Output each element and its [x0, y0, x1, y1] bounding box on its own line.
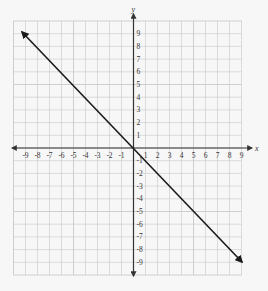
- y-tick-label: -7: [137, 232, 143, 241]
- x-tick-label: -1: [118, 151, 124, 160]
- x-tick-label: 3: [168, 151, 172, 160]
- y-tick-label: -4: [137, 194, 143, 203]
- x-tick-label: -3: [94, 151, 100, 160]
- x-tick-label: -6: [58, 151, 64, 160]
- x-tick-label: -7: [46, 151, 52, 160]
- y-tick-label: -6: [137, 220, 143, 229]
- y-axis-label: y: [131, 5, 136, 14]
- y-tick-label: -3: [137, 182, 143, 191]
- y-tick-label: 5: [137, 80, 141, 89]
- x-axis-label: x: [254, 144, 259, 153]
- y-tick-label: -5: [137, 207, 143, 216]
- coordinate-plane: -9-8-7-6-5-4-3-2-1123456789987654321-1-2…: [0, 0, 268, 291]
- x-tick-label: 2: [156, 151, 160, 160]
- x-tick-label: -2: [106, 151, 112, 160]
- y-tick-label: 4: [137, 93, 141, 102]
- y-tick-label: 9: [137, 29, 141, 38]
- y-tick-label: 2: [137, 118, 141, 127]
- x-tick-label: 8: [228, 151, 232, 160]
- y-tick-label: -9: [137, 258, 143, 267]
- x-tick-label: 5: [192, 151, 196, 160]
- x-tick-label: 4: [180, 151, 184, 160]
- y-tick-label: 1: [137, 131, 141, 140]
- x-tick-label: 9: [240, 151, 244, 160]
- y-tick-label: 3: [137, 105, 141, 114]
- x-tick-label: -5: [70, 151, 76, 160]
- y-tick-label: -2: [137, 169, 143, 178]
- x-tick-label: 6: [204, 151, 208, 160]
- x-tick-label: -9: [22, 151, 28, 160]
- y-tick-label: -8: [137, 245, 143, 254]
- x-tick-label: -4: [82, 151, 88, 160]
- y-tick-label: 6: [137, 67, 141, 76]
- y-tick-label: 7: [137, 55, 141, 64]
- x-tick-label: 7: [216, 151, 220, 160]
- y-tick-label: 8: [137, 42, 141, 51]
- x-tick-label: -8: [34, 151, 40, 160]
